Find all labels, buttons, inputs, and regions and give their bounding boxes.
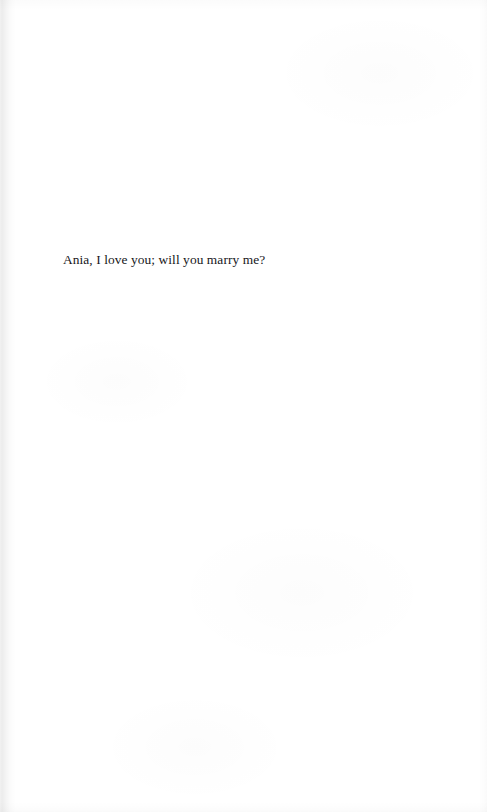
- paper-texture: [0, 0, 487, 812]
- book-page: Ania, I love you; will you marry me?: [0, 0, 487, 812]
- right-edge-shadow: [479, 0, 487, 812]
- gutter-shadow: [0, 0, 16, 812]
- dedication-line: Ania, I love you; will you marry me?: [63, 251, 423, 269]
- text-block: Ania, I love you; will you marry me?: [63, 251, 423, 269]
- bottom-edge-shadow: [0, 802, 487, 812]
